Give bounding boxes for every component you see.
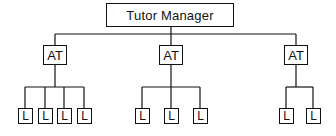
leaf-node: L	[18, 108, 33, 124]
agent-label: AT	[163, 48, 179, 63]
leaf-label: L	[197, 109, 204, 123]
tutor-manager-node: Tutor Manager	[106, 3, 234, 27]
leaf-node: L	[57, 108, 72, 124]
agent-node-3: AT	[284, 45, 308, 65]
leaf-node: L	[77, 108, 92, 124]
leaf-node: L	[306, 108, 321, 124]
agent-node-2: AT	[159, 45, 183, 65]
leaf-label: L	[22, 109, 29, 123]
leaf-node: L	[279, 108, 294, 124]
tutor-manager-label: Tutor Manager	[126, 8, 213, 23]
leaf-label: L	[310, 109, 317, 123]
leaf-node: L	[193, 108, 208, 124]
leaf-label: L	[139, 109, 146, 123]
leaf-label: L	[283, 109, 290, 123]
leaf-node: L	[164, 108, 179, 124]
agent-label: AT	[288, 48, 304, 63]
leaf-label: L	[81, 109, 88, 123]
leaf-node: L	[38, 108, 53, 124]
leaf-label: L	[61, 109, 68, 123]
leaf-label: L	[42, 109, 49, 123]
leaf-label: L	[168, 109, 175, 123]
agent-node-1: AT	[43, 45, 67, 65]
agent-label: AT	[47, 48, 63, 63]
leaf-node: L	[135, 108, 150, 124]
